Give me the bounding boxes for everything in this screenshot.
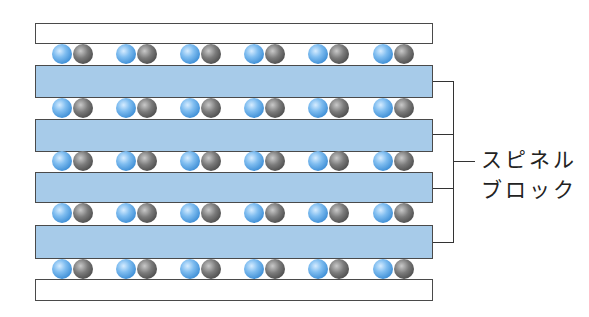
gray-ion (394, 259, 414, 279)
gray-ion (137, 44, 157, 64)
blue-ion (308, 259, 328, 279)
blue-ion (180, 203, 200, 223)
gray-ion (201, 44, 221, 64)
gray-ion (201, 151, 221, 171)
gray-ion (73, 151, 93, 171)
blue-ion (116, 203, 136, 223)
bracket-tick-2 (433, 134, 454, 135)
gray-ion (329, 203, 349, 223)
blue-ion (52, 98, 72, 118)
gray-ion (394, 151, 414, 171)
blue-ion (308, 203, 328, 223)
blue-ion (116, 151, 136, 171)
bracket-label-connector (454, 161, 475, 162)
gray-ion (73, 203, 93, 223)
bracket-tick-4 (433, 242, 454, 243)
blue-ion (52, 203, 72, 223)
blue-ion (52, 151, 72, 171)
gray-ion (73, 259, 93, 279)
boundary-layer (35, 23, 433, 44)
spinel-block-layer (35, 119, 433, 152)
blue-ion (180, 98, 200, 118)
gray-ion (329, 259, 349, 279)
gray-ion (73, 44, 93, 64)
gray-ion (394, 203, 414, 223)
blue-ion (373, 98, 393, 118)
boundary-layer (35, 279, 433, 301)
gray-ion (265, 203, 285, 223)
gray-ion (137, 98, 157, 118)
gray-ion (137, 203, 157, 223)
blue-ion (244, 259, 264, 279)
blue-ion (52, 259, 72, 279)
blue-ion (180, 259, 200, 279)
gray-ion (201, 259, 221, 279)
blue-ion (373, 203, 393, 223)
blue-ion (244, 151, 264, 171)
spinel-block-layer (35, 65, 433, 98)
spinel-block-layer (35, 172, 433, 203)
blue-ion (116, 98, 136, 118)
blue-ion (244, 203, 264, 223)
gray-ion (137, 151, 157, 171)
spinel-block-label-line2: ブロック (481, 177, 577, 204)
bracket-tick-3 (433, 188, 454, 189)
blue-ion (52, 44, 72, 64)
gray-ion (201, 203, 221, 223)
gray-ion (329, 98, 349, 118)
gray-ion (201, 98, 221, 118)
gray-ion (137, 259, 157, 279)
blue-ion (180, 44, 200, 64)
spinel-block-layer (35, 225, 433, 259)
gray-ion (394, 44, 414, 64)
gray-ion (329, 151, 349, 171)
gray-ion (73, 98, 93, 118)
gray-ion (265, 259, 285, 279)
gray-ion (265, 98, 285, 118)
blue-ion (116, 259, 136, 279)
blue-ion (373, 259, 393, 279)
blue-ion (373, 151, 393, 171)
gray-ion (329, 44, 349, 64)
gray-ion (265, 44, 285, 64)
gray-ion (394, 98, 414, 118)
gray-ion (265, 151, 285, 171)
bracket-tick-1 (433, 81, 454, 82)
blue-ion (308, 44, 328, 64)
blue-ion (244, 44, 264, 64)
blue-ion (308, 151, 328, 171)
blue-ion (373, 44, 393, 64)
blue-ion (308, 98, 328, 118)
blue-ion (180, 151, 200, 171)
blue-ion (244, 98, 264, 118)
blue-ion (116, 44, 136, 64)
spinel-block-label-line1: スピネル (481, 147, 577, 174)
